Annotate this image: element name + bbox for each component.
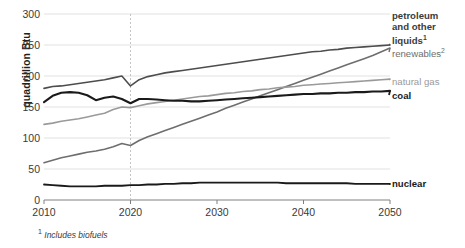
series-label-renewables: renewables2 <box>392 45 445 59</box>
series-line-coal <box>44 91 390 103</box>
leader-line-petroleum-and-other-liquids <box>389 44 390 45</box>
x-tick-label-2020: 2020 <box>111 206 151 218</box>
x-tick-label-2040: 2040 <box>284 206 324 218</box>
leader-line-natural-gas <box>389 79 390 80</box>
footnote: 1 Includes biofuels <box>38 228 108 240</box>
series-label-natural-gas: natural gas <box>392 76 439 87</box>
leader-line-renewables <box>389 48 390 52</box>
series-line-nuclear <box>44 183 390 187</box>
x-tick-label-2010: 2010 <box>24 206 64 218</box>
leader-line-coal <box>389 91 390 95</box>
series-label-petroleum: petroleum and other liquids1 <box>392 10 438 47</box>
series-label-coal: coal <box>392 90 411 101</box>
x-tick-label-2030: 2030 <box>197 206 237 218</box>
series-label-petroleum-line1: petroleum <box>392 10 438 21</box>
chart-container: quadrillion Btu 050100150200250300 20102… <box>0 0 465 248</box>
series-line-natural-gas <box>44 79 390 124</box>
series-label-petroleum-line2: and other <box>392 21 438 32</box>
series-label-nuclear: nuclear <box>392 178 426 189</box>
x-tick-label-2050: 2050 <box>370 206 410 218</box>
series-line-petroleum-and-other-liquids <box>44 45 390 88</box>
